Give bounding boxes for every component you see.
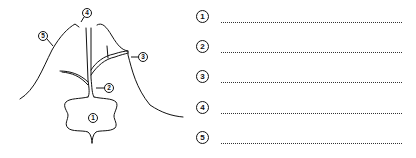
answer-line-5[interactable] — [221, 143, 402, 144]
answer-line-3[interactable] — [221, 82, 402, 83]
answer-row-5: 5 — [196, 131, 416, 151]
answer-row-2: 2 — [196, 40, 416, 60]
bulb — [65, 97, 92, 143]
svg-text:1: 1 — [91, 114, 95, 121]
answer-line-2[interactable] — [221, 52, 402, 53]
answer-row-4: 4 — [196, 101, 416, 121]
number-marker: 1 — [196, 10, 209, 23]
number-marker: 5 — [196, 131, 209, 144]
answer-row-3: 3 — [196, 70, 416, 90]
svg-text:4: 4 — [85, 9, 89, 16]
answer-row-1: 1 — [196, 10, 416, 30]
number-marker: 3 — [196, 70, 209, 83]
branch-right — [91, 51, 128, 70]
outer-right-contour — [97, 24, 183, 117]
stem-left — [86, 28, 89, 97]
answer-line-1[interactable] — [221, 22, 402, 23]
number-marker: 4 — [196, 101, 209, 114]
number-marker: 2 — [196, 40, 209, 53]
stem-right — [91, 28, 94, 97]
outer-left-contour — [20, 24, 79, 99]
plant-diagram: 4 5 3 2 1 — [0, 0, 200, 158]
svg-text:5: 5 — [41, 32, 45, 39]
answer-line-4[interactable] — [221, 113, 402, 114]
svg-text:2: 2 — [107, 84, 111, 91]
svg-text:3: 3 — [141, 53, 145, 60]
